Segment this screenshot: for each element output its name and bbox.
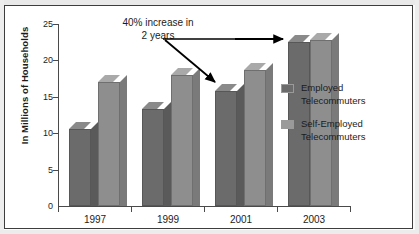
legend-swatch-employed [281,84,294,93]
legend-swatch-self-employed [281,120,294,129]
legend-label-self-employed-line2: Telecommuters [301,131,409,144]
chart-figure: In Millions of Households 25 20 15 10 5 … [0,0,419,234]
legend-item-self-employed: Self-Employed Telecommuters [281,118,409,143]
plot-area: In Millions of Households 25 20 15 10 5 … [5,6,414,230]
legend-label-employed-line2: Telecommuters [301,95,409,108]
legend-label-self-employed-line1: Self-Employed [301,118,409,131]
scan-margin-right [415,0,419,234]
legend-label-employed-line1: Employed [301,82,409,95]
legend-item-employed: Employed Telecommuters [281,82,409,107]
scan-margin-bottom [0,230,419,234]
chart-frame: In Millions of Households 25 20 15 10 5 … [4,5,413,229]
chart-legend: Employed Telecommuters Self-Employed Tel… [281,82,409,154]
